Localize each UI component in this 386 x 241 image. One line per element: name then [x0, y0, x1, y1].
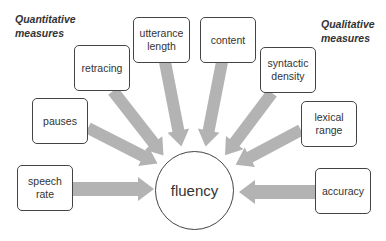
arrow-utterance-length [154, 60, 192, 149]
fluency-diagram: Quantitative measures Qualitative measur… [0, 0, 386, 241]
arrow-speech-rate [72, 177, 154, 201]
box-pauses: pauses [32, 98, 88, 144]
box-speech-rate: speech rate [17, 165, 73, 211]
box-lexical-range: lexical range [301, 101, 357, 147]
box-utterance-length: utterance length [133, 17, 190, 63]
heading-qualitative-measures: Qualitative measures [321, 17, 375, 45]
arrow-content [195, 60, 233, 149]
box-syntactic-density: syntactic density [260, 47, 316, 93]
box-content: content [200, 17, 256, 63]
arrow-accuracy [239, 180, 315, 204]
box-retracing: retracing [74, 45, 130, 91]
box-accuracy: accuracy [315, 168, 371, 214]
heading-quantitative-measures: Quantitative measures [15, 12, 76, 40]
hub-fluency: fluency [155, 151, 234, 230]
